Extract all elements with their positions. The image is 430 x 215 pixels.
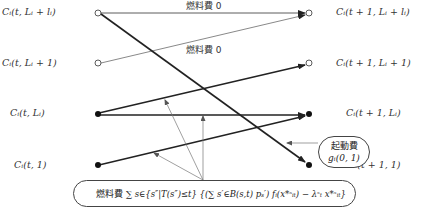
label-L4: Cᵢ(t, Lᵢ + lᵢ) — [2, 7, 56, 17]
node-L1 — [95, 162, 101, 168]
edge-L2-R3 — [99, 65, 305, 113]
label-R3: Cᵢ(t + 1, Lᵢ + 1) — [336, 58, 411, 68]
edge-label-top: 燃料費 0 — [186, 2, 222, 11]
node-R3 — [306, 60, 312, 66]
fuel-pointer-3 — [154, 153, 203, 180]
fuel-cost-formula: ∑ s∈{s″|T(s″)≤t} {(∑ s′∈B(s,t) pₛ′) fᵢ(x… — [126, 189, 346, 199]
edge-L3-R4 — [101, 15, 305, 63]
label-L3: Cᵢ(t, Lᵢ + 1) — [2, 58, 57, 68]
node-L3 — [95, 60, 101, 66]
startup-cost-box: 起動費 gᵢ(0, 1) — [318, 136, 370, 168]
fuel-pointer-1 — [165, 100, 203, 180]
label-L2: Cᵢ(t, Lᵢ) — [10, 108, 45, 118]
node-R2 — [306, 111, 312, 117]
fuel-cost-box: 燃料費 ∑ s∈{s″|T(s″)≤t} {(∑ s′∈B(s,t) pₛ′) … — [73, 180, 356, 207]
edge-label-second: 燃料費 0 — [186, 46, 222, 55]
startup-cost-formula: gᵢ(0, 1) — [319, 152, 369, 164]
label-R4: Cᵢ(t + 1, Lᵢ + lᵢ) — [336, 7, 410, 17]
node-R1 — [306, 162, 312, 168]
node-L2 — [95, 111, 101, 117]
node-L4 — [95, 10, 101, 16]
startup-cost-title: 起動費 — [319, 140, 369, 152]
label-L1: Cᵢ(t, 1) — [14, 160, 47, 170]
label-R2: Cᵢ(t + 1, Lᵢ) — [346, 108, 401, 118]
fuel-cost-title: 燃料費 — [96, 189, 123, 199]
node-R4 — [306, 10, 312, 16]
